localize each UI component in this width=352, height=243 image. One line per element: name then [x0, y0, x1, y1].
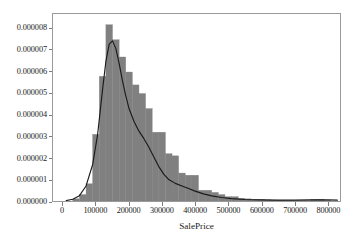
y-tick-label: 0.000003 [17, 131, 47, 143]
x-tick-mark [129, 202, 130, 206]
x-tick-mark [295, 202, 296, 206]
histogram-bar [132, 85, 139, 201]
histogram-bar [159, 132, 166, 201]
y-tick-mark [49, 136, 53, 137]
histogram-bar [113, 40, 120, 201]
y-tick-label: 0.000008 [17, 22, 47, 34]
histogram-bar [139, 94, 146, 201]
x-tick-mark [162, 202, 163, 206]
histogram-bar [106, 25, 113, 201]
x-tick-mark [62, 202, 63, 206]
y-tick-mark [49, 93, 53, 94]
histogram-bar [99, 76, 106, 201]
x-tick-label: 0 [60, 206, 64, 215]
y-axis: 0.0000000.0000010.0000020.0000030.000004… [0, 13, 52, 202]
histogram-bar [172, 156, 179, 201]
histogram-bar [192, 175, 199, 201]
x-tick-label: 200000 [117, 206, 141, 215]
histogram-figure: 0.0000000.0000010.0000020.0000030.000004… [0, 0, 352, 243]
histogram-bar [79, 195, 86, 201]
y-tick-label: 0.000005 [17, 87, 47, 99]
x-axis: 0100000200000300000400000500000600000700… [52, 202, 341, 222]
data-layer [53, 14, 340, 201]
chart-canvas [53, 14, 340, 201]
x-tick-mark [195, 202, 196, 206]
y-tick-label: 0.000006 [17, 66, 47, 78]
y-tick-label: 0.000004 [17, 109, 47, 121]
y-tick-mark [49, 28, 53, 29]
y-tick-label: 0.000002 [17, 153, 47, 165]
histogram-bars [73, 25, 331, 201]
x-tick-label: 100000 [83, 206, 107, 215]
y-tick-mark [49, 49, 53, 50]
histogram-bar [146, 109, 153, 201]
x-tick-label: 800000 [316, 206, 340, 215]
histogram-bar [198, 190, 205, 201]
x-tick-mark [95, 202, 96, 206]
y-tick-mark [49, 180, 53, 181]
x-tick-mark [228, 202, 229, 206]
y-tick-mark [49, 115, 53, 116]
x-tick-mark [262, 202, 263, 206]
x-tick-label: 400000 [183, 206, 207, 215]
y-tick-label: 0.000000 [17, 196, 47, 208]
y-tick-mark [49, 158, 53, 159]
y-tick-mark [49, 71, 53, 72]
x-tick-label: 700000 [283, 206, 307, 215]
histogram-bar [152, 132, 159, 201]
histogram-bar [86, 184, 93, 201]
y-tick-label: 0.000001 [17, 174, 47, 186]
x-tick-label: 300000 [150, 206, 174, 215]
x-axis-title: SalePrice [52, 221, 341, 231]
plot-area [52, 13, 341, 202]
histogram-bar [126, 72, 133, 201]
x-tick-label: 500000 [217, 206, 241, 215]
x-tick-mark [328, 202, 329, 206]
x-tick-label: 600000 [250, 206, 274, 215]
y-tick-label: 0.000007 [17, 44, 47, 56]
